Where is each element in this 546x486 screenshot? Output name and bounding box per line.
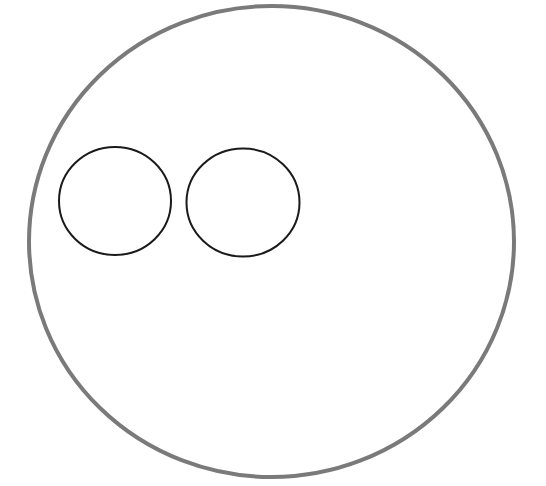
figure-svg (0, 0, 546, 486)
diagram-canvas (0, 0, 546, 486)
canvas-background (0, 0, 546, 486)
